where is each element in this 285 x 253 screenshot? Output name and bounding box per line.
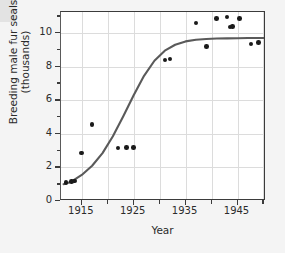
data-point	[72, 179, 77, 184]
y-tick-minor	[57, 82, 60, 83]
y-tick-major	[55, 32, 60, 33]
x-tick-label: 1945	[217, 206, 257, 216]
y-tick-label: 6	[46, 94, 52, 104]
data-point	[131, 145, 136, 150]
x-tick-minor	[262, 200, 263, 204]
x-tick-label: 1925	[113, 206, 153, 216]
scan-background-top	[60, 0, 265, 11]
x-axis-title: Year	[60, 224, 265, 236]
x-tick-label: 1915	[61, 206, 101, 216]
data-point	[204, 44, 209, 49]
y-tick-label: 10	[39, 27, 52, 37]
logistic-fit-curve	[61, 12, 265, 200]
y-axis-title-line1: Breeding male fur seals	[7, 0, 19, 124]
y-tick-major	[55, 200, 60, 201]
y-tick-label: 0	[46, 195, 52, 205]
y-tick-minor	[57, 15, 60, 16]
y-tick-major	[55, 166, 60, 167]
x-tick-minor	[211, 200, 212, 204]
fur-seals-scatter-chart: 0246810 1915192519351945 Breeding male f…	[0, 0, 285, 253]
y-tick-label: 2	[46, 161, 52, 171]
y-tick-minor	[57, 116, 60, 117]
y-axis-title: Breeding male fur seals (thousands)	[7, 0, 31, 137]
data-point	[237, 16, 242, 21]
x-tick-minor	[107, 200, 108, 204]
y-tick-label: 4	[46, 128, 52, 138]
y-axis-title-line2: (thousands)	[19, 0, 31, 137]
data-point	[256, 40, 261, 45]
y-tick-minor	[57, 150, 60, 151]
data-point	[124, 145, 129, 150]
data-point	[214, 16, 219, 21]
y-tick-major	[55, 66, 60, 67]
y-tick-minor	[57, 49, 60, 50]
y-tick-label: 8	[46, 61, 52, 71]
data-point	[230, 24, 235, 29]
y-tick-major	[55, 99, 60, 100]
x-tick-minor	[159, 200, 160, 204]
y-tick-minor	[57, 183, 60, 184]
y-tick-major	[55, 133, 60, 134]
plot-area	[60, 11, 265, 200]
x-tick-label: 1935	[165, 206, 205, 216]
scan-background-right	[265, 0, 285, 253]
